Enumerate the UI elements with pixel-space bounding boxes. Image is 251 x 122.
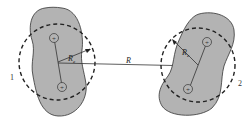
svg-text:+: + <box>52 35 56 43</box>
svg-text:+: + <box>186 86 190 94</box>
svg-text:+: + <box>205 39 209 47</box>
molecule-1-charge-bottom: + <box>58 83 67 93</box>
svg-text:+: + <box>60 84 64 92</box>
separation-label: R <box>125 56 131 65</box>
molecule-2-charge-top: + <box>203 38 212 48</box>
molecule-1-label: 1 <box>10 73 14 82</box>
arrowhead-icon <box>172 39 177 45</box>
diagram-canvas: + + Re 1 R + + Re 2 <box>0 0 251 122</box>
molecule-2-label: 2 <box>238 79 242 88</box>
molecule-1-charge-top: + <box>50 34 59 44</box>
molecule-2-charge-bottom: + <box>184 85 193 95</box>
